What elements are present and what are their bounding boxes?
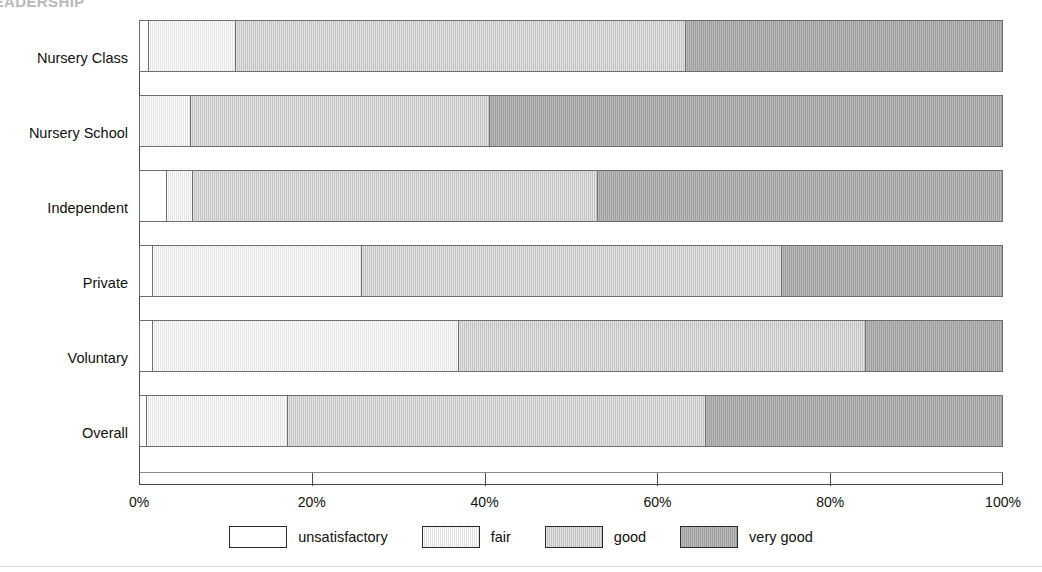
stacked-bar bbox=[139, 95, 1003, 147]
category-label-private: Private bbox=[0, 257, 128, 309]
chart-legend: unsatisfactoryfairgoodvery good bbox=[0, 520, 1042, 554]
bar-segment-fair bbox=[140, 96, 191, 146]
x-axis bbox=[139, 472, 1003, 485]
stacked-bar bbox=[139, 20, 1003, 72]
category-label-independent: Independent bbox=[0, 182, 128, 234]
x-axis-label-100pct: 100% bbox=[985, 494, 1021, 510]
legend-item-good[interactable]: good bbox=[545, 526, 646, 548]
category-label-nursery-class: Nursery Class bbox=[0, 32, 128, 84]
bar-segment-unsatisfactory bbox=[140, 246, 153, 296]
bar-segment-good bbox=[362, 246, 782, 296]
bar-segment-unsatisfactory bbox=[140, 171, 167, 221]
bar-row bbox=[139, 395, 1003, 447]
bar-segment-good bbox=[288, 396, 706, 446]
stacked-bar bbox=[139, 320, 1003, 372]
bar-segment-good bbox=[459, 321, 866, 371]
x-axis-tick bbox=[657, 473, 658, 486]
x-axis-label-80pct: 80% bbox=[816, 494, 844, 510]
bar-segment-fair bbox=[153, 321, 459, 371]
x-axis-label-20pct: 20% bbox=[298, 494, 326, 510]
stacked-bar bbox=[139, 170, 1003, 222]
x-axis-label-60pct: 60% bbox=[643, 494, 671, 510]
legend-swatch-unsatisfactory bbox=[229, 526, 287, 548]
bottom-divider bbox=[0, 566, 1042, 567]
bar-segment-good bbox=[193, 171, 598, 221]
legend-item-fair[interactable]: fair bbox=[422, 526, 511, 548]
bar-segment-unsatisfactory bbox=[140, 21, 149, 71]
legend-swatch-good bbox=[545, 526, 603, 548]
stacked-bar bbox=[139, 245, 1003, 297]
bar-row bbox=[139, 20, 1003, 72]
bar-segment-very-good bbox=[598, 171, 1002, 221]
x-axis-label-40pct: 40% bbox=[471, 494, 499, 510]
x-axis-tick bbox=[485, 473, 486, 486]
x-axis-label-0pct: 0% bbox=[129, 494, 149, 510]
legend-item-very-good[interactable]: very good bbox=[680, 526, 813, 548]
cropped-section-heading: LEADERSHIP bbox=[0, 0, 120, 11]
bar-segment-very-good bbox=[782, 246, 1002, 296]
category-label-overall: Overall bbox=[0, 407, 128, 459]
stacked-bar bbox=[139, 395, 1003, 447]
bar-row bbox=[139, 170, 1003, 222]
bar-segment-unsatisfactory bbox=[140, 396, 147, 446]
bar-segment-very-good bbox=[490, 96, 1002, 146]
legend-swatch-verygood bbox=[680, 526, 738, 548]
cropped-section-heading-text: LEADERSHIP bbox=[0, 0, 85, 10]
category-label-voluntary: Voluntary bbox=[0, 332, 128, 384]
legend-label: very good bbox=[749, 529, 813, 545]
bar-segment-very-good bbox=[866, 321, 1002, 371]
bar-segment-very-good bbox=[686, 21, 1002, 71]
x-axis-tick bbox=[830, 473, 831, 486]
bar-row bbox=[139, 320, 1003, 372]
category-label-nursery-school: Nursery School bbox=[0, 107, 128, 159]
legend-label: good bbox=[614, 529, 646, 545]
legend-swatch-fair bbox=[422, 526, 480, 548]
legend-label: fair bbox=[491, 529, 511, 545]
bar-segment-good bbox=[191, 96, 490, 146]
x-axis-tick bbox=[312, 473, 313, 486]
legend-item-unsatisfactory[interactable]: unsatisfactory bbox=[229, 526, 387, 548]
bar-row bbox=[139, 95, 1003, 147]
bar-segment-fair bbox=[147, 396, 288, 446]
bar-segment-good bbox=[236, 21, 686, 71]
bar-segment-fair bbox=[149, 21, 236, 71]
plot-area bbox=[139, 20, 1003, 472]
bar-row bbox=[139, 245, 1003, 297]
bar-segment-very-good bbox=[706, 396, 1002, 446]
bar-segment-fair bbox=[153, 246, 362, 296]
stacked-bar-chart: 0%20%40%60%80%100% Nursery ClassNursery … bbox=[0, 12, 1042, 572]
bar-segment-unsatisfactory bbox=[140, 321, 153, 371]
bar-segment-fair bbox=[167, 171, 193, 221]
legend-label: unsatisfactory bbox=[298, 529, 387, 545]
